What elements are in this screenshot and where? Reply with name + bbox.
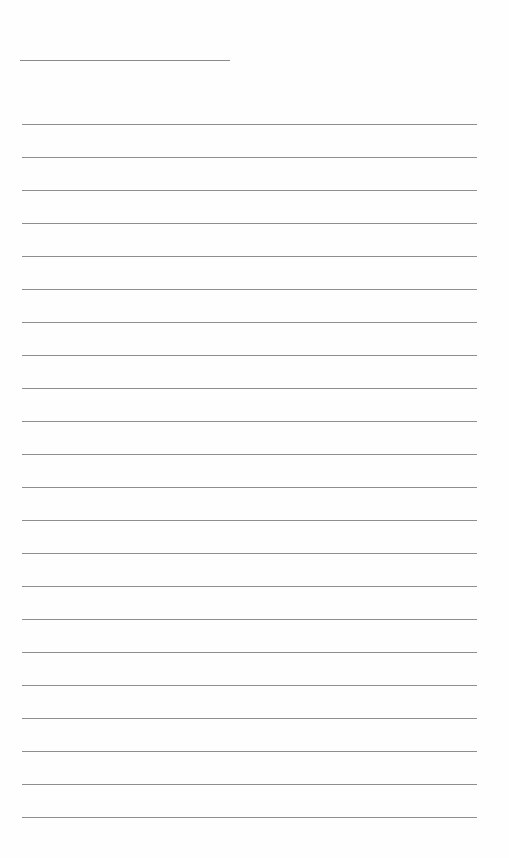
ruled-line — [22, 586, 477, 587]
ruled-line — [22, 751, 477, 752]
ruled-line — [22, 223, 477, 224]
ruled-line — [22, 685, 477, 686]
ruled-line — [22, 124, 477, 125]
ruled-line — [22, 190, 477, 191]
ruled-line — [22, 553, 477, 554]
ruled-line — [22, 421, 477, 422]
ruled-line — [22, 289, 477, 290]
ruled-line — [22, 619, 477, 620]
ruled-line — [22, 355, 477, 356]
ruled-line — [22, 718, 477, 719]
ruled-line — [22, 157, 477, 158]
ruled-line — [22, 322, 477, 323]
title-line — [20, 60, 230, 61]
ruled-line — [22, 454, 477, 455]
ruled-line — [22, 487, 477, 488]
ruled-line — [22, 256, 477, 257]
ruled-line — [22, 784, 477, 785]
lined-page — [0, 0, 509, 858]
ruled-line — [22, 652, 477, 653]
ruled-line — [22, 388, 477, 389]
ruled-line — [22, 520, 477, 521]
ruled-line — [22, 817, 477, 818]
